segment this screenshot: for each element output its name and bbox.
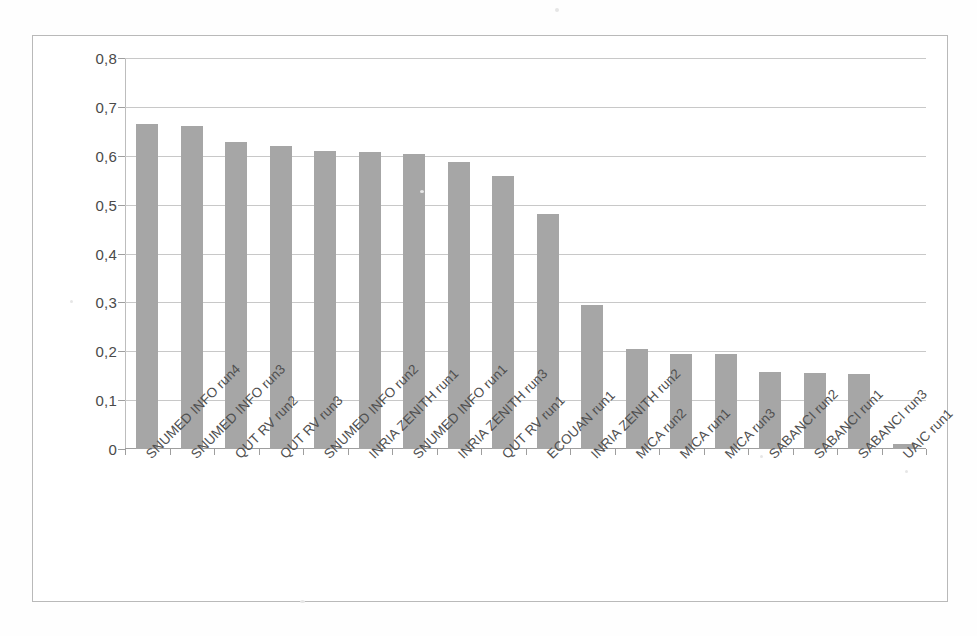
scan-speck [555,8,559,12]
y-axis-tick-mark [118,107,125,108]
y-axis-tick-mark [118,156,125,157]
chart-frame: 0,80,70,60,50,40,30,20,10 SNUMED INFO ru… [32,35,948,602]
y-axis-tick-mark [118,351,125,352]
scan-speck [70,300,73,303]
y-axis: 0,80,70,60,50,40,30,20,10 [55,58,117,449]
y-axis-tick-label: 0,7 [96,98,117,115]
x-axis: SNUMED INFO run4SNUMED INFO run3QUT RV r… [125,451,945,601]
y-axis-tick-mark [118,449,125,450]
gridline [125,107,926,108]
y-axis-tick-label: 0,5 [96,196,117,213]
scan-speck [420,190,424,193]
y-axis-tick-mark [118,302,125,303]
scanned-page-background: 0,80,70,60,50,40,30,20,10 SNUMED INFO ru… [0,0,977,636]
y-axis-tick-mark [118,205,125,206]
scan-speck [300,600,305,603]
y-axis-tick-label: 0,8 [96,50,117,67]
y-axis-tick-label: 0,2 [96,343,117,360]
gridline [125,58,926,59]
bar [136,124,158,450]
y-axis-tick-mark [118,254,125,255]
y-axis-tick-label: 0,6 [96,147,117,164]
y-axis-tick-label: 0,1 [96,392,117,409]
y-axis-tick-label: 0 [108,441,117,458]
y-axis-tick-label: 0,3 [96,294,117,311]
y-axis-tick-mark [118,58,125,59]
scan-speck [760,455,763,458]
scan-speck [905,470,908,473]
bar [715,354,737,449]
y-axis-tick-mark [118,400,125,401]
y-axis-tick-label: 0,4 [96,245,117,262]
